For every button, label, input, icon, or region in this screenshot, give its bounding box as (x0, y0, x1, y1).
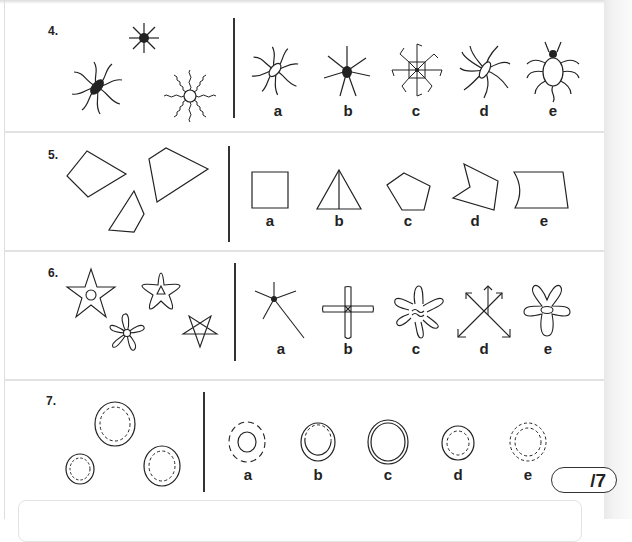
option-label: b (306, 466, 330, 483)
concave-pentagon-icon (452, 163, 500, 211)
option-label: d (472, 102, 496, 119)
option-label: a (258, 212, 282, 229)
star-burst-icon (128, 22, 160, 54)
wavy-six-arm-star-icon (393, 284, 445, 340)
small-quad-icon (108, 190, 146, 234)
question-divider (234, 263, 236, 361)
option-label: b (327, 212, 351, 229)
swirl-petals-icon (458, 42, 512, 98)
question-number: 6. (48, 266, 58, 280)
option-label: e (516, 466, 540, 483)
option-label: e (541, 102, 565, 119)
spider-curvy-filled-icon (62, 52, 132, 122)
question-divider (228, 146, 230, 242)
rounded-star-triangle-icon (140, 271, 182, 311)
double-circle-medium-icon (143, 445, 181, 487)
row-separator (4, 250, 604, 252)
double-circle-large-icon (94, 401, 136, 447)
option-label: b (336, 102, 360, 119)
question-number: 5. (48, 148, 58, 162)
double-circle-small-icon (65, 453, 95, 485)
page-top-shadow (0, 0, 632, 4)
pentagon-icon (386, 172, 432, 212)
answer-box[interactable] (18, 500, 582, 542)
option-label: e (536, 340, 560, 357)
rounded-cross-icon (322, 286, 374, 340)
option-label: d (446, 466, 470, 483)
triangle-median-icon (316, 169, 362, 211)
option-label: b (336, 340, 360, 357)
option-label: c (396, 212, 420, 229)
question-number: 7. (46, 394, 56, 408)
bug-icon (525, 40, 581, 102)
option-label: e (532, 212, 556, 229)
row-separator (4, 379, 604, 381)
crossed-arrows-icon (456, 285, 512, 339)
left-margin-rule (4, 0, 5, 519)
solid-outer-arc-inner-icon (300, 422, 336, 462)
option-label: c (404, 102, 428, 119)
question-number: 4. (48, 24, 58, 38)
option-label: c (376, 466, 400, 483)
score-box[interactable]: /7 (551, 467, 617, 493)
double-solid-circle-icon (367, 419, 409, 465)
solid-outer-dashed-inner-icon (441, 425, 475, 461)
five-arm-rounded-icon (522, 284, 572, 338)
option-label: d (463, 212, 487, 229)
five-petal-flower-icon (108, 313, 146, 353)
option-label: a (269, 340, 293, 357)
pentagram-icon (182, 314, 218, 348)
wavy-sun-icon (158, 64, 222, 128)
question-divider (203, 392, 205, 492)
five-lines-dot-icon (254, 281, 306, 339)
option-label: d (472, 340, 496, 357)
score-text: /7 (590, 470, 606, 492)
option-label: a (236, 466, 260, 483)
curvy-legs-icon (245, 40, 305, 100)
double-dashed-circle-icon (509, 422, 547, 462)
square-web-icon (392, 44, 442, 96)
option-label: c (404, 340, 428, 357)
rectangle-icon (251, 171, 289, 209)
row-separator (4, 131, 604, 133)
star-circle-icon (66, 268, 116, 318)
star-burst-icon (322, 46, 372, 96)
page-edge-shadow (604, 0, 632, 519)
dashed-outer-solid-inner-icon (228, 421, 266, 463)
option-label: a (266, 102, 290, 119)
curved-quad-icon (513, 171, 569, 209)
large-quad-icon (148, 147, 210, 203)
question-divider (233, 18, 235, 118)
